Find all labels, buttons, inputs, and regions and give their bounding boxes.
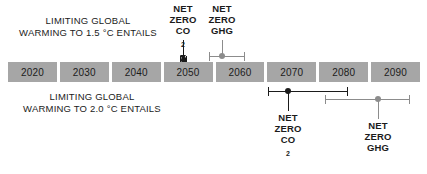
label-net-zero-ghg-2p0-line1: NET [350,120,406,131]
label-net-zero-ghg-2p0: NET ZERO GHG [350,120,406,153]
caption-warming-1p5: LIMITING GLOBAL WARMING TO 1.5 °C ENTAIL… [8,15,168,39]
errorbar-center-dot [219,53,225,59]
errorbar-cap-right [409,95,410,104]
errorbar-cap-left [325,95,326,104]
leader-net-zero-co2-2p0 [288,93,289,111]
decade-cell-2020: 2020 [8,62,57,82]
label-net-zero-ghg-1p5: NET ZERO GHG [194,3,250,36]
caption-warming-1p5-line1: LIMITING GLOBAL [8,15,168,27]
errorbar-spine [209,56,245,57]
caption-warming-2p0: LIMITING GLOBAL WARMING TO 2.0 °C ENTAIL… [8,91,176,115]
caption-warming-1p5-line2: WARMING TO 1.5 °C ENTAILS [8,27,168,39]
label-net-zero-ghg-1p5-line2: ZERO [194,14,250,25]
errorbar-cap-left [209,52,210,61]
decade-cell-2030: 2030 [60,62,109,82]
leader-net-zero-ghg-2p0 [378,101,379,119]
decade-cell-2040: 2040 [112,62,161,82]
errorbar-net-zero-ghg-2p0 [325,95,410,104]
label-net-zero-co2-2p0-line1: NET [260,112,316,123]
decade-cell-2060: 2060 [216,62,265,82]
caption-warming-2p0-line1: LIMITING GLOBAL [8,91,176,103]
errorbar-net-zero-ghg-1p5 [209,52,245,61]
errorbar-spine [268,91,348,92]
label-net-zero-ghg-1p5-line3: GHG [194,25,250,36]
errorbar-spine [325,99,410,100]
label-net-zero-co2-2p0: NET ZERO CO2 [260,112,316,157]
label-net-zero-ghg-2p0-line3: GHG [350,142,406,153]
label-net-zero-co2-2p0-line2: ZERO [260,123,316,134]
errorbar-cap-left [268,87,269,96]
decade-cell-2050: 2050 [164,62,213,82]
decade-cell-2080: 2080 [319,62,368,82]
label-net-zero-co2-2p0-line3: CO2 [260,134,316,157]
decade-cell-2070: 2070 [267,62,316,82]
decade-cell-2090: 2090 [371,62,420,82]
infographic-canvas: LIMITING GLOBAL WARMING TO 1.5 °C ENTAIL… [0,0,427,174]
caption-warming-2p0-line2: WARMING TO 2.0 °C ENTAILS [8,103,176,115]
label-net-zero-ghg-2p0-line2: ZERO [350,131,406,142]
errorbar-cap-right [244,52,245,61]
label-net-zero-ghg-1p5-line1: NET [194,3,250,14]
decade-timeline-bar: 2020 2030 2040 2050 2060 2070 2080 2090 [8,62,420,82]
